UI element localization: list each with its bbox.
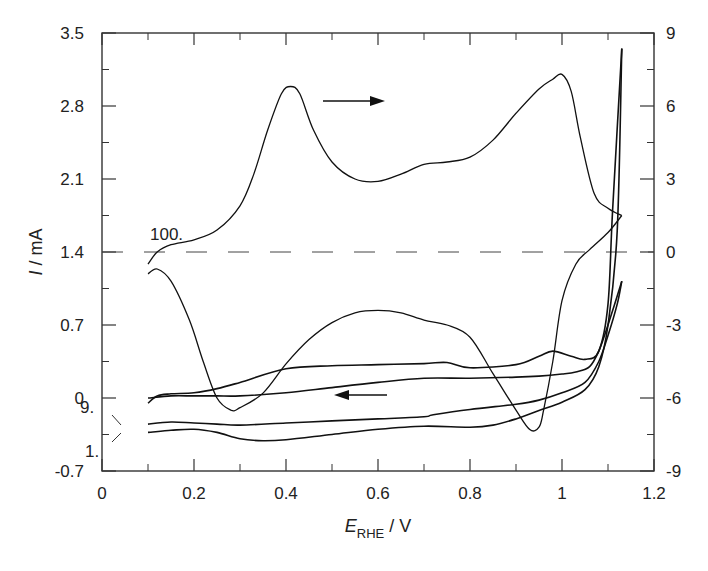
y-tick-label: 3.5 [60, 24, 84, 43]
annotation-cycle-1: 1. [85, 442, 99, 461]
y-tick-label: 0.7 [60, 316, 84, 335]
y2-tick-label: 3 [666, 170, 675, 189]
y2-tick-label: -9 [666, 462, 681, 481]
y2-tick-label: -3 [666, 316, 681, 335]
x-axis-title: ERHE / V [345, 516, 411, 541]
leader-line-cycle-9 [112, 415, 121, 425]
x-tick-label: 0.8 [458, 484, 482, 503]
x-tick-label: 0.4 [274, 484, 298, 503]
series-layer [148, 49, 622, 441]
series-cycle-100-anodic [148, 74, 622, 264]
annotation-cycle-100: 100. [150, 225, 183, 244]
annotation-cycle-9: 9. [80, 398, 94, 417]
series-cycle-100-cathodic [148, 216, 622, 431]
x-tick-label: 1 [557, 484, 566, 503]
y-tick-label: 2.8 [60, 97, 84, 116]
leader-line-cycle-1 [112, 433, 121, 442]
y2-tick-label: 6 [666, 97, 675, 116]
y-tick-label: 1.4 [60, 243, 84, 262]
series-cycle-9-anodic [148, 281, 622, 425]
arrow-left-icon [334, 390, 387, 400]
series-cycle-9-cathodic [148, 281, 622, 398]
y2-tick-label: 0 [666, 243, 675, 262]
x-tick-label: 1.2 [642, 484, 666, 503]
y2-tick-label: 9 [666, 24, 675, 43]
y-tick-label: 2.1 [60, 170, 84, 189]
y-tick-label: -0.7 [55, 462, 84, 481]
x-tick-label: 0 [97, 484, 106, 503]
arrow-right-icon [323, 96, 385, 106]
x-tick-label: 0.2 [182, 484, 206, 503]
series-cycle-1-cathodic [148, 49, 622, 404]
x-axis-ticks: 00.20.40.60.811.2 [97, 33, 666, 503]
y-axis-title: I / mA [26, 228, 46, 275]
y2-tick-label: -6 [666, 389, 681, 408]
cyclic-voltammogram-chart: 00.20.40.60.811.2 -0.700.71.42.12.83.5 -… [0, 0, 708, 571]
y-axis-right-ticks: -9-6-30369 [640, 24, 681, 481]
x-tick-label: 0.6 [366, 484, 390, 503]
